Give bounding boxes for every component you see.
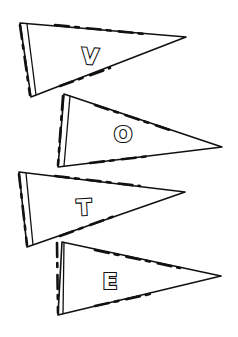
pennant-v: V: [20, 23, 186, 97]
pennant-letter-o: O: [114, 122, 133, 147]
pennant-letter-e: E: [102, 269, 117, 294]
pennant-o: O: [58, 94, 222, 167]
pennant-letter-v: V: [81, 43, 100, 69]
pennant-e: E: [57, 242, 221, 315]
pennant-letter-t: T: [76, 195, 92, 221]
pennant-t: T: [19, 172, 185, 247]
vote-pennants-illustration: V O T E: [0, 0, 238, 337]
